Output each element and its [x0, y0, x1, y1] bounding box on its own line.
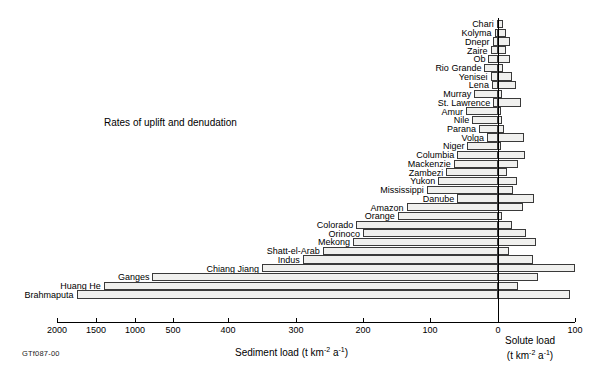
row-label-mississippi: Mississippi [380, 186, 424, 195]
plot-area: ChariKolymaDneprZaireObRio GrandeYenisei… [0, 0, 592, 376]
bar-solute [498, 98, 521, 106]
x-tick-label-2000: 2000 [47, 325, 67, 335]
bar-sediment [323, 247, 498, 255]
bar-solute [498, 238, 536, 246]
bar-sediment [446, 168, 498, 176]
bar-sediment [488, 55, 498, 63]
bar-sediment [262, 264, 498, 272]
x-tick-label-0: 0 [495, 325, 500, 335]
x-tick-label-r100: 100 [567, 325, 582, 335]
bar-sediment [353, 238, 498, 246]
x-tick-200 [363, 318, 364, 322]
bar-solute [498, 177, 517, 185]
x-tick-label-200: 200 [355, 325, 370, 335]
x-tick-1000 [135, 318, 136, 322]
bar-solute [498, 29, 506, 37]
x-tick-1500 [96, 318, 97, 322]
bar-solute [498, 290, 570, 298]
bar-solute [498, 273, 538, 281]
bar-sediment [474, 90, 498, 98]
bar-sediment [457, 151, 498, 159]
bar-sediment [466, 107, 498, 115]
x-tick-0 [498, 318, 499, 322]
bar-sediment [454, 160, 498, 168]
bar-solute [498, 168, 507, 176]
bar-sediment [407, 203, 498, 211]
bar-solute [498, 255, 533, 263]
bar-sediment [479, 125, 498, 133]
zero-axis-line [498, 18, 499, 322]
bar-sediment [363, 229, 498, 237]
bar-solute [498, 221, 512, 229]
bar-solute [498, 160, 518, 168]
x-tick-label-1500: 1500 [86, 325, 106, 335]
x-tick-300 [296, 318, 297, 322]
sediment-axis-title: Sediment load (t km-2 a-1) [235, 346, 348, 358]
bar-sediment [472, 116, 498, 124]
row-label-brahmaputa: Brahmaputa [24, 291, 73, 300]
bar-solute [498, 264, 575, 272]
x-axis-line [57, 322, 575, 323]
bar-sediment [77, 290, 499, 298]
bar-sediment [457, 194, 498, 202]
bar-sediment [467, 142, 498, 150]
bar-solute [498, 151, 525, 159]
bar-sediment [398, 212, 498, 220]
chart-root: Rates of uplift and denudation ChariKoly… [0, 0, 592, 376]
bar-solute [498, 282, 518, 290]
x-tick-label-100: 100 [422, 325, 437, 335]
bar-solute [498, 247, 509, 255]
bar-solute [498, 203, 523, 211]
bar-sediment [491, 72, 498, 80]
bar-sediment [484, 64, 498, 72]
bar-solute [498, 37, 510, 45]
bar-sediment [427, 186, 498, 194]
solute-axis-title: Solute load(t km-2 a-1) [505, 335, 555, 362]
bar-solute [498, 229, 526, 237]
x-tick-400 [228, 318, 229, 322]
x-tick-500 [173, 318, 174, 322]
x-tick-label-1000: 1000 [125, 325, 145, 335]
x-tick-label-500: 500 [165, 325, 180, 335]
bar-solute [498, 81, 516, 89]
x-tick-label-300: 300 [288, 325, 303, 335]
bar-solute [498, 133, 524, 141]
bar-solute [498, 55, 510, 63]
x-tick-r100 [575, 318, 576, 322]
bar-sediment [438, 177, 498, 185]
bar-sediment [356, 221, 498, 229]
figure-id: GTf087-00 [22, 349, 60, 358]
bar-sediment [303, 255, 498, 263]
bar-solute [498, 46, 506, 54]
x-tick-2000 [57, 318, 58, 322]
bar-solute [498, 72, 512, 80]
x-tick-label-400: 400 [220, 325, 235, 335]
bar-sediment [104, 282, 498, 290]
bar-sediment [491, 46, 498, 54]
bar-sediment [487, 133, 498, 141]
x-tick-100 [430, 318, 431, 322]
bar-solute [498, 194, 534, 202]
bar-sediment [152, 273, 498, 281]
bar-solute [498, 186, 513, 194]
